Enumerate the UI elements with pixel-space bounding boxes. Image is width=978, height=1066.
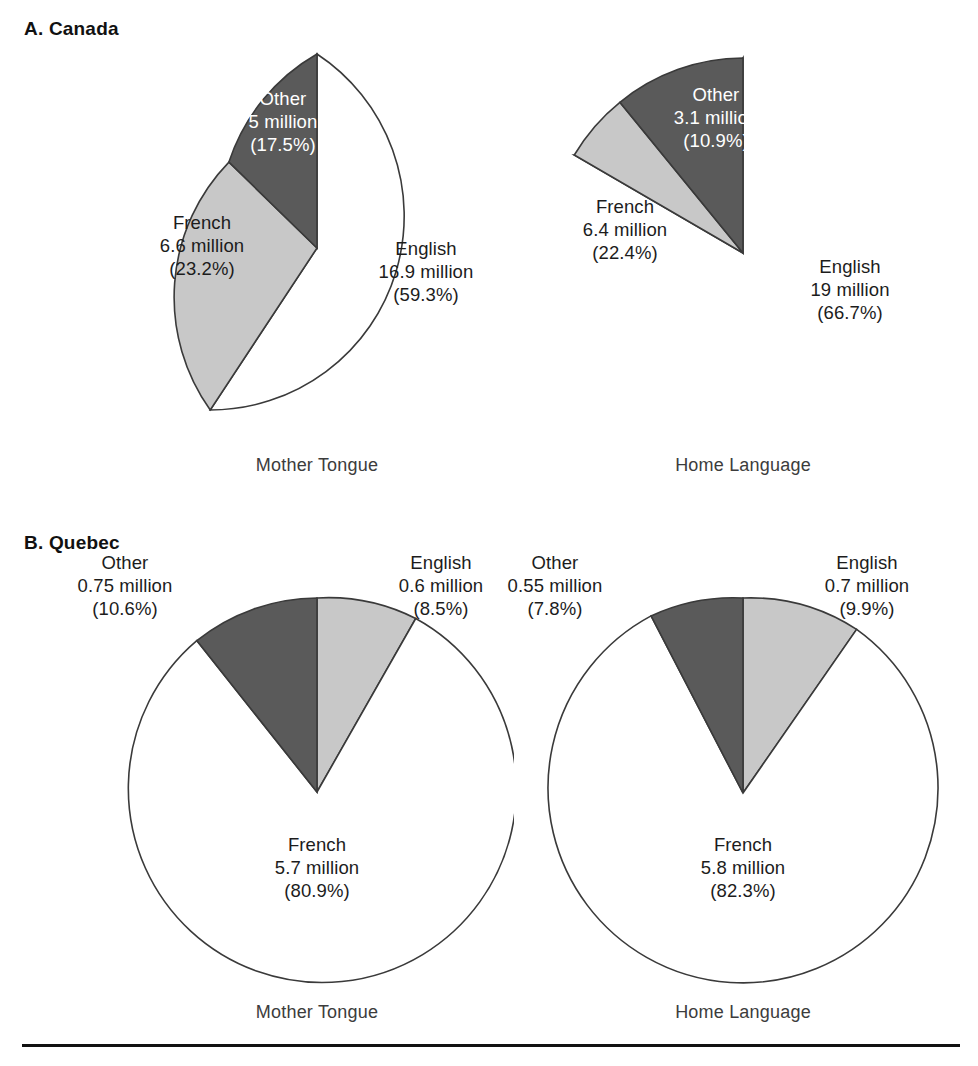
- label-value: 3.1 million: [629, 107, 803, 130]
- label-name: Other: [629, 84, 803, 107]
- panel-b-title: B. Quebec: [24, 532, 120, 554]
- caption-canada-home-language: Home Language: [643, 455, 843, 476]
- label-percent: (66.7%): [762, 302, 938, 325]
- label-name: Other: [196, 88, 370, 111]
- caption-quebec-mother-tongue: Mother Tongue: [217, 1002, 417, 1023]
- label-name: French: [652, 834, 834, 857]
- label-value: 5.8 million: [652, 857, 834, 880]
- label-percent: (10.9%): [629, 130, 803, 153]
- panel-a-title: A. Canada: [24, 18, 119, 40]
- label-percent: (23.2%): [115, 258, 289, 281]
- label-percent: (7.8%): [452, 598, 658, 621]
- label-value: 0.55 million: [452, 575, 658, 598]
- footer-rule: [22, 1044, 960, 1047]
- label-name: French: [226, 834, 408, 857]
- label-percent: (82.3%): [652, 880, 834, 903]
- label-value: 5.7 million: [226, 857, 408, 880]
- label-name: French: [538, 196, 712, 219]
- label-name: French: [115, 212, 289, 235]
- label-name: Other: [22, 552, 228, 575]
- pie-quebec-mother-tongue-svg: [120, 595, 514, 989]
- label-percent: (80.9%): [226, 880, 408, 903]
- label-value: 0.7 million: [774, 575, 960, 598]
- label-value: 5 million: [196, 111, 370, 134]
- label-name: English: [762, 256, 938, 279]
- label-name: Other: [452, 552, 658, 575]
- pie-quebec-home-language-svg: [545, 595, 941, 991]
- label-french-canada-mother-tongue: French 6.6 million (23.2%): [115, 212, 289, 281]
- label-percent: (10.6%): [22, 598, 228, 621]
- label-english-canada-mother-tongue: English 16.9 million (59.3%): [338, 238, 514, 307]
- label-value: 16.9 million: [338, 261, 514, 284]
- pie-chart-quebec-mother-tongue: [120, 595, 514, 989]
- label-other-canada-home-language: Other 3.1 million (10.9%): [629, 84, 803, 153]
- label-english-quebec-home-language: English 0.7 million (9.9%): [774, 552, 960, 621]
- label-english-canada-home-language: English 19 million (66.7%): [762, 256, 938, 325]
- label-name: English: [774, 552, 960, 575]
- label-value: 0.75 million: [22, 575, 228, 598]
- label-value: 6.4 million: [538, 219, 712, 242]
- language-distribution-figure: A. Canada Other 5 million (17.5%) French…: [0, 0, 978, 1066]
- label-other-canada-mother-tongue: Other 5 million (17.5%): [196, 88, 370, 157]
- caption-canada-mother-tongue: Mother Tongue: [217, 455, 417, 476]
- label-value: 19 million: [762, 279, 938, 302]
- pie-chart-quebec-home-language: [545, 595, 941, 991]
- label-percent: (9.9%): [774, 598, 960, 621]
- label-name: English: [338, 238, 514, 261]
- label-other-quebec-mother-tongue: Other 0.75 million (10.6%): [22, 552, 228, 621]
- label-french-quebec-mother-tongue: French 5.7 million (80.9%): [226, 834, 408, 903]
- label-percent: (17.5%): [196, 134, 370, 157]
- label-percent: (22.4%): [538, 242, 712, 265]
- label-other-quebec-home-language: Other 0.55 million (7.8%): [452, 552, 658, 621]
- label-value: 6.6 million: [115, 235, 289, 258]
- label-french-canada-home-language: French 6.4 million (22.4%): [538, 196, 712, 265]
- label-percent: (59.3%): [338, 284, 514, 307]
- label-french-quebec-home-language: French 5.8 million (82.3%): [652, 834, 834, 903]
- caption-quebec-home-language: Home Language: [643, 1002, 843, 1023]
